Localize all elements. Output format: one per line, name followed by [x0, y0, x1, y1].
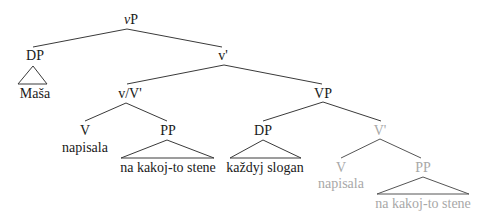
node-v-bar: v' [218, 48, 228, 64]
branch-vVbar-PP [126, 103, 167, 121]
node-dp-subject: DP [26, 48, 44, 64]
words-pp-ghost: na kakoj-to stene [375, 196, 471, 212]
triangle-dp-subject [18, 66, 47, 84]
branch-vP-vbar [127, 29, 222, 47]
word-v-ghost: napisala [318, 176, 364, 192]
branch-Vbar-PP-ghost [380, 139, 421, 158]
tree-branches [0, 0, 488, 221]
word-v-head: napisala [62, 140, 108, 156]
node-pp-high: PP [160, 123, 176, 139]
branch-vVbar-V [85, 103, 126, 121]
node-V-bar-ghost: V' [374, 123, 387, 139]
node-VP: VP [314, 86, 332, 102]
node-vP: vP [124, 12, 138, 28]
triangle-dp-object [230, 140, 301, 158]
node-vP-suffix: P [130, 12, 138, 27]
triangle-pp-ghost [377, 177, 469, 194]
node-v-head: V [80, 123, 90, 139]
branch-VP-DP [263, 102, 323, 121]
node-vV-bar: v/V' [118, 86, 142, 102]
branch-vbar-vVbar [127, 65, 224, 84]
triangle-pp-high [121, 140, 214, 158]
branch-vbar-VP [224, 65, 322, 84]
syntax-tree: vP DP Maša v' v/V' V napisala PP na kako… [0, 0, 488, 221]
branch-vP-DP [33, 29, 127, 47]
node-v-ghost: V [336, 160, 346, 176]
branch-Vbar-V-ghost [341, 139, 380, 158]
words-pp-high: na kakoj-to stene [120, 160, 216, 176]
branch-VP-Vbar [323, 102, 381, 121]
words-object: každyj slogan [226, 160, 303, 176]
node-pp-ghost: PP [415, 160, 431, 176]
node-dp-object: DP [254, 123, 272, 139]
word-subject: Maša [20, 86, 50, 102]
